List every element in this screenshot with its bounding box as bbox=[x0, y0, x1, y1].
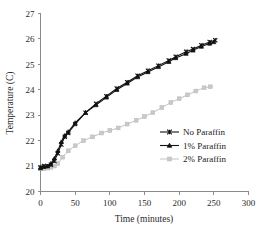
x-axis-tick-labels: 050100150200250300 bbox=[38, 198, 256, 208]
y-tick-label: 27 bbox=[26, 9, 36, 19]
x-tick-label: 150 bbox=[138, 198, 152, 208]
square-marker bbox=[91, 135, 95, 139]
square-marker bbox=[66, 149, 70, 153]
square-marker bbox=[134, 118, 138, 122]
legend-label: 1% Paraffin bbox=[183, 141, 227, 151]
x-tick-label: 250 bbox=[207, 198, 221, 208]
square-marker bbox=[100, 131, 104, 135]
y-tick-label: 21 bbox=[26, 161, 35, 171]
square-marker bbox=[82, 139, 86, 143]
square-marker bbox=[73, 144, 77, 148]
square-marker bbox=[177, 97, 181, 101]
square-marker bbox=[151, 111, 155, 115]
x-tick-label: 100 bbox=[103, 198, 117, 208]
square-marker bbox=[168, 157, 172, 161]
square-marker bbox=[169, 101, 173, 105]
square-marker bbox=[186, 93, 190, 97]
y-tick-label: 25 bbox=[26, 60, 36, 70]
chart-axes bbox=[38, 14, 249, 195]
y-tick-label: 24 bbox=[26, 85, 36, 95]
x-tick-label: 200 bbox=[172, 198, 186, 208]
square-marker bbox=[56, 162, 60, 166]
square-marker bbox=[108, 129, 112, 133]
legend-label: No Paraffin bbox=[183, 127, 226, 137]
y-axis-title: Temperature (C) bbox=[5, 72, 16, 135]
x-axis-title: Time (minutes) bbox=[115, 214, 174, 225]
legend-label: 2% Paraffin bbox=[183, 154, 227, 164]
square-marker bbox=[116, 126, 120, 130]
y-tick-label: 26 bbox=[26, 34, 36, 44]
square-marker bbox=[202, 86, 206, 90]
legend-item-2-paraffin[interactable]: 2% Paraffin bbox=[160, 154, 227, 164]
legend-item-1-paraffin[interactable]: 1% Paraffin bbox=[160, 141, 227, 151]
x-tick-label: 50 bbox=[71, 198, 81, 208]
y-axis-tick-labels: 2021222324252627 bbox=[26, 9, 36, 197]
chart-figure: 2021222324252627 050100150200250300 Time… bbox=[0, 0, 269, 235]
legend-item-no-paraffin[interactable]: No Paraffin bbox=[160, 127, 226, 137]
square-marker bbox=[143, 115, 147, 119]
y-tick-label: 22 bbox=[26, 136, 35, 146]
chart-legend: No Paraffin1% Paraffin2% Paraffin bbox=[160, 127, 227, 164]
temperature-vs-time-line-chart: 2021222324252627 050100150200250300 Time… bbox=[0, 0, 269, 235]
square-marker bbox=[194, 89, 198, 93]
square-marker bbox=[61, 155, 65, 159]
square-marker bbox=[125, 122, 129, 126]
square-marker bbox=[160, 106, 164, 110]
x-tick-label: 0 bbox=[38, 198, 43, 208]
square-marker bbox=[208, 85, 212, 89]
y-tick-label: 20 bbox=[26, 187, 36, 197]
y-tick-label: 23 bbox=[26, 110, 36, 120]
x-tick-label: 300 bbox=[242, 198, 256, 208]
